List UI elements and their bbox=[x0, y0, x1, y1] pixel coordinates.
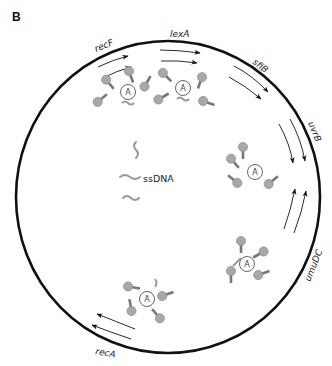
lexa-complex-lexa: A bbox=[152, 66, 216, 109]
ssdna-fragment-1 bbox=[134, 142, 138, 158]
ssdna-fragment-2 bbox=[120, 175, 140, 179]
arrow-umudc-2 bbox=[294, 191, 306, 233]
lexa-complex-uvrb: A bbox=[225, 142, 281, 190]
chromosome-circle bbox=[16, 41, 320, 353]
gene-label-lexa: lexA bbox=[170, 29, 190, 39]
arrow-lexa-1 bbox=[160, 50, 200, 53]
complex-label: A bbox=[125, 88, 131, 97]
lexa-complex-reca: A bbox=[123, 279, 175, 325]
arrow-uvrb-1 bbox=[279, 124, 293, 163]
arrow-umudc-1 bbox=[284, 189, 295, 229]
ssdna-fragment-3 bbox=[123, 196, 139, 200]
arrow-lexa-2 bbox=[161, 61, 197, 63]
arrow-reca-1 bbox=[97, 314, 135, 329]
complex-label: A bbox=[244, 260, 250, 269]
gene-label-reca: recA bbox=[95, 346, 117, 359]
sos-response-diagram: recF lexA sfiB uvrB umuDC recA A bbox=[0, 0, 332, 366]
complex-label: A bbox=[180, 84, 186, 93]
lexa-complex-umudc: A bbox=[226, 236, 271, 283]
arrow-reca-2 bbox=[92, 325, 131, 339]
complex-label: A bbox=[144, 295, 150, 304]
complex-label: A bbox=[252, 168, 258, 177]
ssdna-fragments bbox=[120, 142, 140, 200]
lexa-complex-recf: A bbox=[91, 65, 154, 108]
ssdna-label: ssDNA bbox=[143, 173, 174, 184]
